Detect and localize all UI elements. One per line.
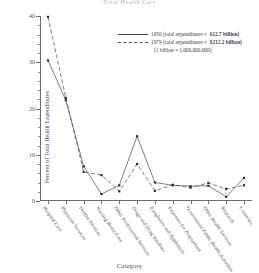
data-point-marker (154, 181, 156, 183)
data-point-marker (83, 165, 85, 167)
data-point-marker (100, 193, 102, 195)
x-category-label: Construction (238, 205, 252, 231)
x-category-label: Eyeglasses and Appliances (149, 205, 187, 255)
legend-entry-1950: 1950 (total expenditures = $12.7 billion… (118, 30, 242, 38)
data-point-marker (83, 171, 85, 173)
y-tick-label: 0 (32, 198, 35, 204)
legend-label-1950-prefix: 1950 (total expenditures = (151, 30, 207, 38)
x-category-label: Drugs and Drug Sundries (131, 205, 167, 253)
data-point-marker (243, 184, 245, 186)
data-point-marker (136, 135, 138, 137)
legend-line-dashed-icon (118, 40, 148, 45)
data-point-marker (189, 186, 191, 188)
y-tick-label: 40 (29, 13, 35, 19)
legend-line-solid-icon (118, 32, 148, 37)
legend-label-1950-value: $12.7 billion) (210, 30, 239, 38)
legend-note: (1 billion = 1,000,000,000) (118, 46, 242, 54)
data-point-marker (47, 59, 49, 61)
data-point-marker (243, 177, 245, 179)
data-point-marker (65, 97, 67, 99)
legend: 1950 (total expenditures = $12.7 billion… (118, 30, 242, 54)
y-tick-label: 30 (29, 59, 35, 65)
y-tick-label: 20 (29, 106, 35, 112)
data-point-marker (207, 182, 209, 184)
data-point-marker (118, 190, 120, 192)
x-category-label: Research (220, 205, 236, 224)
data-point-marker (172, 184, 174, 186)
series-line-1950 (48, 60, 244, 196)
data-point-marker (225, 188, 227, 190)
x-category-label: Expenses for Prepayment (167, 205, 203, 253)
legend-entry-1979: 1979 (total expenditures = $212.2 billio… (118, 38, 242, 46)
x-axis-label: Category (0, 262, 259, 269)
chart-title: Total Health Care (0, 0, 259, 5)
y-tick-major (36, 201, 40, 202)
data-point-marker (154, 190, 156, 192)
data-point-marker (225, 196, 227, 198)
legend-label-1979-prefix: 1979 (total expenditures = (151, 38, 207, 46)
health-expenditures-chart: Total Health Care Percent of Total Healt… (0, 0, 259, 273)
y-tick-label: 10 (29, 152, 35, 158)
legend-label-1979-value: $212.2 billion) (210, 38, 242, 46)
data-point-marker (136, 163, 138, 165)
data-point-marker (47, 16, 49, 18)
data-point-marker (118, 184, 120, 186)
data-point-marker (100, 174, 102, 176)
data-point-marker (207, 185, 209, 187)
